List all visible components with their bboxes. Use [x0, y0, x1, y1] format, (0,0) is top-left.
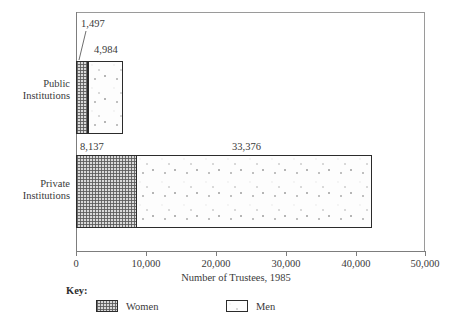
chart-container: Public Institutions 1,497 4,984 Private …	[0, 0, 472, 328]
legend-label-women: Women	[126, 301, 158, 312]
tick-label-40000: 40,000	[342, 258, 371, 270]
legend-item-men[interactable]: Men	[226, 300, 275, 312]
bar-public-men[interactable]	[88, 61, 123, 134]
category-label-private-line2: Institutions	[0, 190, 70, 202]
tick-mark-0	[76, 252, 77, 256]
tick-mark-20000	[216, 252, 217, 256]
legend-title: Key:	[66, 285, 88, 296]
category-label-public-line2: Institutions	[0, 90, 70, 102]
tick-label-10000: 10,000	[132, 258, 161, 270]
value-label-private-men: 33,376	[232, 141, 261, 153]
legend-swatch-women-icon	[96, 300, 118, 312]
tick-mark-50000	[425, 252, 426, 256]
tick-label-0: 0	[73, 258, 78, 270]
bar-private-women[interactable]	[76, 155, 137, 228]
category-label-public: Public Institutions	[0, 78, 70, 102]
tick-label-30000: 30,000	[272, 258, 301, 270]
tick-label-20000: 20,000	[202, 258, 231, 270]
legend-item-women[interactable]: Women	[96, 300, 158, 312]
category-label-public-line1: Public	[0, 78, 70, 90]
tick-mark-40000	[356, 252, 357, 256]
legend-swatch-men-icon	[226, 300, 248, 312]
tick-label-50000: 50,000	[411, 258, 440, 270]
value-label-private-women: 8,137	[80, 141, 104, 153]
value-label-public-women: 1,497	[81, 18, 105, 30]
tick-mark-10000	[146, 252, 147, 256]
category-label-private-line1: Private	[0, 178, 70, 190]
x-axis-title: Number of Trustees, 1985	[0, 272, 472, 283]
category-label-private: Private Institutions	[0, 178, 70, 202]
x-axis-line	[76, 251, 426, 252]
value-label-public-men: 4,984	[94, 44, 118, 56]
legend-label-men: Men	[256, 301, 275, 312]
tick-mark-30000	[286, 252, 287, 256]
bar-public-women[interactable]	[76, 61, 88, 134]
bar-private-men[interactable]	[136, 155, 372, 228]
